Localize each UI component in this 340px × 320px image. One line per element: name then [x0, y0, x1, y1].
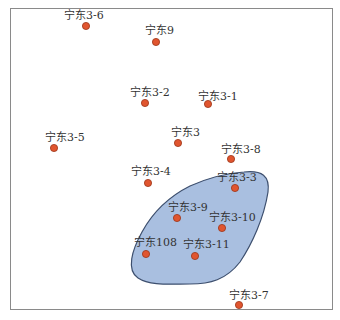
well-label: 宁东9 — [145, 25, 174, 37]
well-label: 宁东3-5 — [45, 132, 85, 144]
well-label: 宁东3-7 — [229, 290, 269, 302]
well-label: 宁东3-10 — [209, 212, 256, 224]
well-label: 宁东3-4 — [131, 166, 171, 178]
well-label: 宁东3-6 — [64, 10, 104, 22]
map-frame — [10, 8, 333, 310]
well-label: 宁东3-8 — [221, 144, 261, 156]
well-label: 宁东3-3 — [217, 172, 257, 184]
well-label: 宁东108 — [134, 237, 177, 249]
well-label: 宁东3 — [171, 127, 200, 139]
well-map: 宁东3-6宁东9宁东3-2宁东3-1宁东3-5宁东3宁东3-8宁东3-4宁东3-… — [0, 0, 340, 320]
well-label: 宁东3-9 — [168, 202, 208, 214]
well-label: 宁东3-11 — [183, 239, 230, 251]
well-label: 宁东3-1 — [198, 91, 238, 103]
well-label: 宁东3-2 — [130, 87, 170, 99]
